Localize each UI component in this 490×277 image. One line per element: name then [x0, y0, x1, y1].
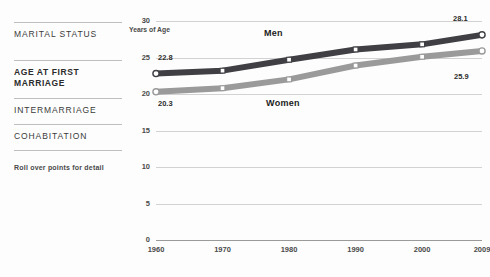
data-point-marker[interactable]: [353, 63, 358, 68]
data-point-marker[interactable]: [220, 86, 225, 91]
data-label-women-end: 25.9: [454, 72, 469, 81]
data-point-marker[interactable]: [420, 54, 425, 59]
data-point-marker[interactable]: [287, 77, 292, 82]
sidebar-divider: [14, 150, 122, 151]
data-label-men-end: 28.1: [453, 14, 468, 23]
data-label-men-start: 22.8: [158, 53, 173, 62]
series-label-women: Women: [266, 98, 300, 108]
data-point-marker[interactable]: [220, 68, 225, 73]
data-point-marker[interactable]: [479, 32, 485, 38]
rollover-hint: Roll over points for detail: [14, 164, 132, 171]
data-point-marker[interactable]: [353, 47, 358, 52]
sidebar-item-label: INTERMARRIAGE: [14, 105, 97, 115]
sidebar-item-marital-status[interactable]: MARITAL STATUS: [14, 22, 122, 60]
sidebar-item-label: AGE AT FIRST MARRIAGE: [14, 67, 79, 88]
chart-area: Years of Age 051015202530 19601970198019…: [128, 0, 490, 277]
plot-lines: [128, 0, 490, 277]
sidebar-item-label: MARITAL STATUS: [14, 29, 97, 39]
sidebar-item-age-at-first-marriage[interactable]: AGE AT FIRST MARRIAGE: [14, 60, 122, 98]
sidebar-nav: MARITAL STATUS AGE AT FIRST MARRIAGE INT…: [0, 0, 136, 277]
sidebar-item-label: COHABITATION: [14, 131, 87, 141]
chart-page: MARITAL STATUS AGE AT FIRST MARRIAGE INT…: [0, 0, 490, 277]
data-point-marker[interactable]: [479, 48, 485, 54]
sidebar-item-intermarriage[interactable]: INTERMARRIAGE: [14, 98, 122, 124]
data-label-women-start: 20.3: [158, 99, 173, 108]
sidebar-item-cohabitation[interactable]: COHABITATION: [14, 124, 122, 150]
data-point-marker[interactable]: [420, 42, 425, 47]
series-label-men: Men: [264, 28, 283, 38]
data-point-marker[interactable]: [153, 89, 159, 95]
data-point-marker[interactable]: [153, 70, 159, 76]
data-point-marker[interactable]: [287, 57, 292, 62]
